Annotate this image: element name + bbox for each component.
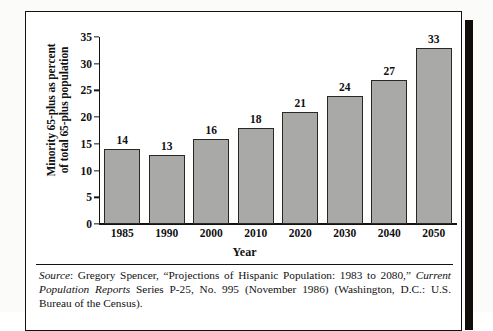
y-axis-tick-labels: 05101520253035	[70, 37, 92, 224]
bar-value-label: 16	[193, 124, 229, 136]
bar-value-label: 13	[149, 140, 185, 152]
frame-drop-shadow	[465, 20, 473, 330]
x-tick-label: 2020	[278, 227, 323, 239]
bar-value-label: 27	[371, 65, 407, 77]
y-tick-label: 0	[70, 219, 92, 230]
bar	[282, 112, 318, 224]
bar	[371, 80, 407, 224]
y-tick-label: 20	[70, 112, 92, 123]
bar-group: 33	[416, 37, 452, 224]
x-axis-tick-labels: 19851990200020102020203020402050	[100, 227, 456, 243]
y-tick-label: 10	[70, 165, 92, 176]
bar-value-label: 18	[238, 113, 274, 125]
bar-value-label: 21	[282, 97, 318, 109]
x-tick-label: 2000	[189, 227, 234, 239]
bar	[238, 128, 274, 224]
x-tick-label: 2050	[412, 227, 457, 239]
bar-group: 21	[282, 37, 318, 224]
x-tick-label: 1990	[145, 227, 190, 239]
bar	[193, 139, 229, 224]
bar-chart: Minority 65-plus as percent of total 65-…	[26, 12, 463, 244]
bar-value-label: 24	[327, 81, 363, 93]
bar-value-label: 14	[104, 134, 140, 146]
source-label: Source	[39, 269, 70, 281]
x-tick-label: 2040	[367, 227, 412, 239]
bar-group: 18	[238, 37, 274, 224]
source-divider	[36, 264, 453, 265]
source-text-part1: Gregory Spencer, “Projections of Hispani…	[78, 269, 416, 281]
bar	[416, 48, 452, 224]
y-tick-label: 15	[70, 138, 92, 149]
bars-layer: 1413161821242733	[100, 37, 456, 224]
bar	[327, 96, 363, 224]
y-tick-label: 30	[70, 58, 92, 69]
bar-group: 16	[193, 37, 229, 224]
bar-group: 27	[371, 37, 407, 224]
y-tick-label: 35	[70, 32, 92, 43]
bar-group: 24	[327, 37, 363, 224]
bar-value-label: 33	[416, 33, 452, 45]
y-tick-label: 5	[70, 192, 92, 203]
bar-group: 13	[149, 37, 185, 224]
source-note: Source: Gregory Spencer, “Projections of…	[39, 268, 451, 311]
source-colon: :	[70, 269, 78, 281]
x-tick-label: 1985	[100, 227, 145, 239]
bar	[149, 155, 185, 224]
bar-group: 14	[104, 37, 140, 224]
figure-frame: Minority 65-plus as percent of total 65-…	[25, 11, 462, 331]
x-tick-label: 2010	[234, 227, 279, 239]
x-axis-title: Year	[26, 245, 463, 260]
y-tick-label: 25	[70, 85, 92, 96]
bar	[104, 149, 140, 224]
y-axis-title-line1: Minority 65-plus as percent	[45, 44, 59, 177]
x-tick-label: 2030	[323, 227, 368, 239]
